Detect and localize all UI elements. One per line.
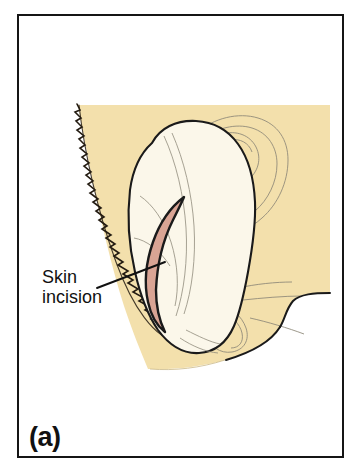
skin-incision-label-line2: incision	[42, 287, 102, 307]
figure-page: Skin incision (a)	[0, 0, 358, 460]
figure-caption: (a)	[29, 424, 61, 451]
skin-incision-label-line1: Skin	[42, 267, 77, 287]
surgical-illustration: Skin incision	[0, 0, 358, 460]
